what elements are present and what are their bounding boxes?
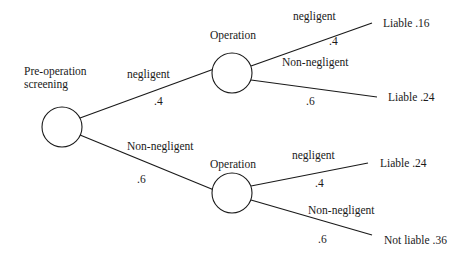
edge-label-upper: negligent xyxy=(127,68,171,81)
edge-lower-to-liable-24 xyxy=(251,163,368,186)
upper-top-outcome: Liable .16 xyxy=(383,17,430,29)
upper-bottom-outcome: Liable .24 xyxy=(388,91,435,103)
edge-label-lower: Non-negligent xyxy=(127,140,194,153)
root-label-line1: Pre-operation xyxy=(24,65,87,78)
edge-prob-upper: .4 xyxy=(154,95,163,107)
root-node-circle xyxy=(42,107,82,147)
lower-bottom-edge-label: Non-negligent xyxy=(308,204,375,217)
root-label-line2: screening xyxy=(24,78,68,91)
lower-top-edge-label: negligent xyxy=(292,149,336,162)
upper-operation-node-circle xyxy=(212,53,252,93)
lower-top-outcome: Liable .24 xyxy=(380,157,427,169)
upper-top-edge-label: negligent xyxy=(293,10,337,23)
lower-operation-node-circle xyxy=(212,173,252,213)
lower-node-label: Operation xyxy=(210,158,256,171)
lower-top-prob: .4 xyxy=(315,177,324,189)
upper-bottom-prob: .6 xyxy=(306,95,315,107)
lower-bottom-prob: .6 xyxy=(318,233,327,245)
edge-prob-lower: .6 xyxy=(137,173,146,185)
upper-node-label: Operation xyxy=(210,29,256,42)
probability-tree-diagram: Pre-operation screening negligent .4 Non… xyxy=(0,0,461,261)
upper-top-prob: .4 xyxy=(329,35,338,47)
lower-bottom-outcome: Not liable .36 xyxy=(384,234,447,246)
upper-bottom-edge-label: Non-negligent xyxy=(282,56,349,69)
